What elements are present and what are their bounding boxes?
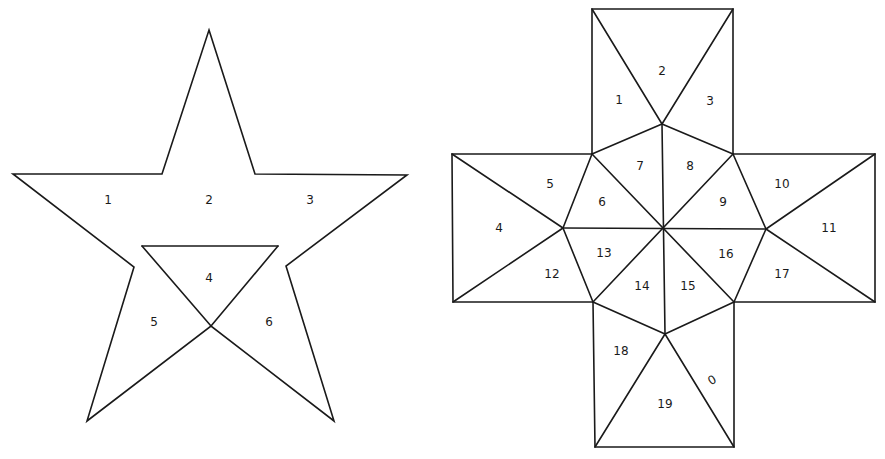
cross-net: 123456789101112131415161718190 bbox=[452, 9, 875, 447]
cross-fold-line bbox=[662, 124, 733, 154]
cross-fold-line bbox=[593, 302, 665, 334]
star-face-label: 2 bbox=[205, 193, 213, 207]
cross-fold-line bbox=[662, 9, 733, 124]
star-fold-line bbox=[142, 246, 211, 326]
cross-fold-line bbox=[563, 228, 593, 302]
cross-fold-line bbox=[665, 302, 734, 334]
diagram-canvas: 123456 123456789101112131415161718190 bbox=[0, 0, 885, 459]
cross-face-label: 4 bbox=[495, 221, 503, 235]
cross-face-label: 14 bbox=[634, 279, 649, 293]
cross-fold-line bbox=[734, 229, 766, 302]
cross-face-label: 13 bbox=[596, 246, 611, 260]
cross-face-label: 15 bbox=[680, 279, 695, 293]
cross-face-label: 0 bbox=[705, 372, 719, 388]
star-face-label: 5 bbox=[150, 315, 158, 329]
cross-face-label: 8 bbox=[686, 159, 694, 173]
cross-fold-line bbox=[592, 9, 662, 124]
cross-face-label: 16 bbox=[718, 247, 733, 261]
cross-face-label: 3 bbox=[706, 94, 714, 108]
cross-face-label: 9 bbox=[719, 195, 727, 209]
cross-fold-line bbox=[452, 154, 563, 228]
cross-face-label: 1 bbox=[615, 93, 623, 107]
cross-fold-line bbox=[766, 154, 875, 229]
cross-face-label: 7 bbox=[636, 159, 644, 173]
cross-fold-line bbox=[563, 154, 592, 228]
star-fold-line bbox=[211, 246, 278, 326]
star-outline bbox=[13, 30, 407, 421]
cross-fold-line bbox=[665, 334, 734, 447]
star-face-label: 4 bbox=[205, 271, 213, 285]
cross-face-label: 5 bbox=[546, 177, 554, 191]
cross-face-label: 12 bbox=[544, 267, 559, 281]
cross-fold-line bbox=[733, 154, 766, 229]
cross-face-label: 19 bbox=[657, 397, 672, 411]
cross-fold-line bbox=[453, 228, 563, 302]
cross-face-label: 18 bbox=[613, 344, 628, 358]
cross-fold-line bbox=[595, 334, 665, 447]
star-net: 123456 bbox=[13, 30, 407, 421]
cross-face-label: 10 bbox=[774, 177, 789, 191]
cross-face-label: 6 bbox=[598, 195, 606, 209]
cross-face-label: 2 bbox=[658, 64, 666, 78]
cross-face-label: 11 bbox=[821, 221, 836, 235]
cross-fold-line bbox=[592, 124, 662, 154]
star-face-label: 1 bbox=[104, 193, 112, 207]
star-face-label: 6 bbox=[265, 315, 273, 329]
cross-face-label: 17 bbox=[774, 267, 789, 281]
cross-fold-line bbox=[766, 229, 875, 302]
star-face-label: 3 bbox=[306, 193, 314, 207]
